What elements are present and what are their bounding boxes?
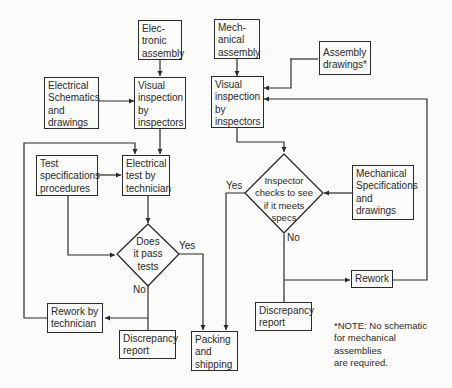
rework-box: Rework	[351, 270, 393, 288]
visual-inspection-electronic-box: Visual inspection by inspectors	[134, 77, 186, 129]
node-text: Inspector	[250, 175, 318, 187]
node-text: Visual	[138, 80, 182, 92]
node-text: Rework by	[51, 306, 99, 318]
node-text: Visual	[215, 79, 260, 91]
node-text: by	[138, 105, 182, 117]
node-text: shipping	[195, 359, 234, 371]
node-text: Packing	[195, 334, 234, 346]
node-text: assembly	[142, 48, 178, 60]
node-text: and	[48, 105, 95, 117]
node-text: Test	[40, 158, 94, 170]
electronic-assembly-box: Elec- tronic assembly	[138, 20, 182, 60]
node-text: inspectors	[138, 117, 182, 129]
node-text: Discrepancy	[259, 305, 308, 317]
footnote: *NOTE: No schematic for mechanical assem…	[334, 320, 427, 370]
edge-label-yes: Yes	[226, 180, 242, 191]
node-text: Elec-	[142, 23, 178, 35]
decision-pass-tests: Does it pass tests	[122, 236, 174, 273]
node-text: by	[215, 104, 260, 116]
node-text: inspection	[138, 92, 182, 104]
packing-and-shipping-box: Packing and shipping	[191, 331, 238, 371]
mechanical-assembly-box: Mech- anical assembly	[214, 19, 260, 59]
note-line: for mechanical	[334, 332, 427, 344]
node-text: technician	[51, 318, 99, 330]
mechanical-specifications-box: Mechanical Specifications and drawings	[352, 165, 414, 220]
edge-label-yes: Yes	[179, 240, 195, 251]
node-text: assembly	[218, 47, 256, 59]
node-text: Electrical	[48, 80, 95, 92]
node-text: drawings	[48, 117, 95, 129]
node-text: tests	[122, 261, 174, 273]
decision-meets-specs: Inspector checks to see if it meets spec…	[250, 175, 318, 225]
discrepancy-report-mechanical-box: Discrepancy report	[255, 302, 312, 331]
node-text: anical	[218, 34, 256, 46]
assembly-drawings-box: Assembly drawings*	[319, 41, 371, 75]
node-text: Electrical	[126, 158, 166, 170]
node-text: tronic	[142, 35, 178, 47]
edge-label-no: No	[287, 232, 300, 243]
visual-inspection-mechanical-box: Visual inspection by inspectors	[211, 76, 264, 128]
node-text: drawings	[356, 205, 410, 217]
node-text: test by	[126, 170, 166, 182]
node-text: Discrepancy	[123, 333, 172, 345]
node-text: checks to see	[250, 187, 318, 199]
test-specifications-box: Test specifications procedures	[36, 155, 98, 196]
electrical-test-box: Electrical test by technician	[122, 155, 170, 196]
node-text: Assembly	[323, 47, 367, 59]
note-line: assemblies	[334, 345, 427, 357]
node-text: procedures	[40, 183, 94, 195]
node-text: report	[123, 345, 172, 357]
rework-by-technician-box: Rework by technician	[47, 303, 103, 333]
node-text: Mech-	[218, 22, 256, 34]
node-text: Mechanical	[356, 168, 410, 180]
node-text: and	[356, 193, 410, 205]
note-line: *NOTE: No schematic	[334, 320, 427, 332]
discrepancy-report-electronic-box: Discrepancy report	[119, 330, 176, 359]
node-text: technician	[126, 183, 166, 195]
node-text: if it meets	[250, 200, 318, 212]
node-text: Does	[122, 236, 174, 248]
node-text: specs	[250, 212, 318, 224]
node-text: specifications	[40, 170, 94, 182]
node-text: drawings*	[323, 59, 367, 71]
node-text: Rework	[355, 273, 389, 285]
edge-label-no: No	[133, 284, 146, 295]
node-text: and	[195, 346, 234, 358]
node-text: it pass	[122, 248, 174, 260]
node-text: Specifications	[356, 180, 410, 192]
node-text: Schematics	[48, 92, 95, 104]
node-text: inspectors	[215, 116, 260, 128]
node-text: report	[259, 317, 308, 329]
node-text: inspection	[215, 91, 260, 103]
note-line: are required.	[334, 357, 427, 369]
electrical-schematics-box: Electrical Schematics and drawings	[44, 77, 99, 129]
